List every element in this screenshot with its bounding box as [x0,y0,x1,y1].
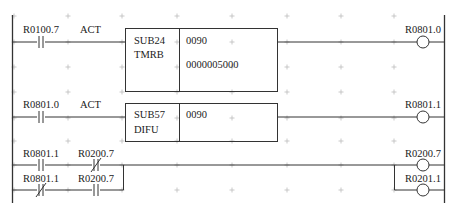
contact-nc-icon [91,158,101,172]
block-param: 0090 [186,108,207,122]
coil-icon [417,184,429,196]
contact-nc-icon [36,183,46,197]
contact-no-icon [39,111,43,123]
contact-address: R0801.0 [23,99,59,110]
block-param: 0090 [186,34,207,48]
contact-no-icon [94,184,98,196]
coil-address: R0200.7 [405,148,441,159]
coil-address: R0201.1 [405,173,441,184]
contact-address: R0200.7 [78,173,114,184]
act-label: ACT [80,99,101,110]
coil-address: R0801.1 [405,99,441,110]
block-code: SUB57 [134,108,165,122]
block-code: SUB24 [134,34,165,48]
ladder-diagram [0,0,457,211]
coil-address: R0801.0 [405,24,441,35]
coil-icon [417,111,429,123]
contact-no-icon [39,36,43,48]
contact-address: R0801.1 [23,148,59,159]
act-label: ACT [80,24,101,35]
contact-address: R0801.1 [23,173,59,184]
block-param: 0000005000 [186,58,239,72]
coil-icon [417,36,429,48]
contact-no-icon [39,159,43,171]
contact-address: R0200.7 [78,148,114,159]
contact-address: R0100.7 [23,24,59,35]
block-name: TMRB [134,48,164,62]
block-name: DIFU [134,123,159,137]
coil-icon [417,159,429,171]
